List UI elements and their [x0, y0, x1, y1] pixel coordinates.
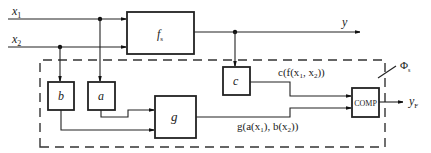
block-g: g [155, 96, 196, 138]
signal-label-g-of-ab: g(a(x1), b(x2)) [237, 120, 299, 134]
svg-text:g: g [171, 109, 178, 124]
checker-label-leader [378, 66, 396, 78]
block-fs: fs [127, 12, 194, 54]
block-comp: COMP [352, 88, 379, 117]
svg-text:b: b [58, 89, 64, 103]
svg-text:COMP: COMP [354, 99, 377, 108]
block-b: b [48, 82, 74, 110]
signal-label-c-of-f: c(f(x1, x2)) [278, 66, 325, 80]
block-c: c [223, 67, 250, 95]
svg-text:a: a [98, 89, 104, 103]
svg-text:c: c [233, 74, 239, 88]
input-x1: x1 [8, 4, 126, 20]
wire-c-to-comp [250, 82, 351, 96]
output-y-label: y [341, 15, 348, 29]
wire-b-to-g [61, 110, 154, 130]
block-diagram: x1 x2 fs y b a g c c(f [0, 0, 431, 153]
checker-label: Φs [400, 59, 411, 73]
input-x1-label: x1 [11, 4, 21, 20]
wire-a-to-g [101, 110, 154, 117]
output-yF-label: yF [408, 94, 418, 110]
wire-g-to-comp [196, 108, 351, 117]
input-x2: x2 [8, 32, 126, 48]
input-x2-label: x2 [11, 32, 21, 48]
block-a: a [88, 82, 115, 110]
